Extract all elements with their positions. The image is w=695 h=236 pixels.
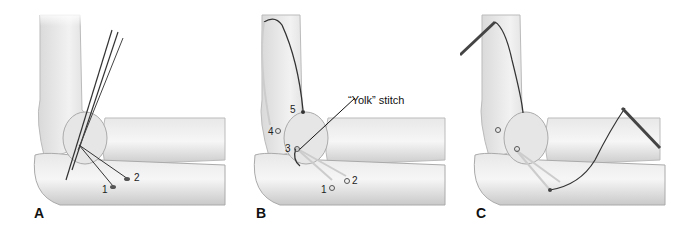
panel-label-a: A [34,205,44,221]
elbow-illustration-c [460,0,695,236]
panel-b: 5 4 3 1 2 “Yolk” stitch B [230,0,460,236]
panel-label-b: B [256,205,266,221]
anchor-1-icon [110,185,116,189]
marker-1: 1 [102,184,108,195]
marker-3: 3 [285,143,291,154]
anchor-2-icon [124,177,130,181]
panel-c: C [460,0,695,236]
yolk-stitch-callout: “Yolk” stitch [348,94,404,106]
panel-label-c: C [476,205,486,221]
marker-2: 2 [352,175,358,186]
marker-1: 1 [321,184,327,195]
marker-4: 4 [268,126,274,137]
panel-a: 1 2 A [0,0,230,236]
marker-5: 5 [290,104,296,115]
elbow-illustration-a [0,0,230,236]
elbow-illustration-b [230,0,460,236]
marker-2: 2 [134,172,140,183]
